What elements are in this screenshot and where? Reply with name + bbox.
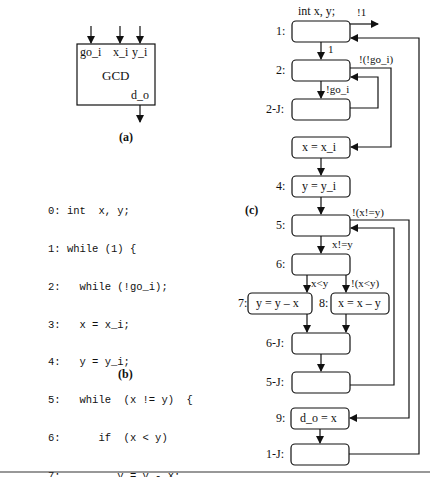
node-label-6: 6: [276,257,285,272]
node-label-9: 9: [276,411,285,426]
fsmd-svg [0,0,430,477]
node-label-2: 2: [276,63,285,78]
node-label-5j: 5-J: [266,375,284,390]
edge-not-ne: !(x!=y) [352,206,384,218]
node-label-7: 7: [238,296,247,311]
edge-not-lt: !(x<y) [351,277,379,289]
node-text-3: x = x_i [302,140,336,155]
node-label-5: 5: [276,218,285,233]
node-label-1j: 1-J: [266,447,284,462]
edge-lt: x<y [311,277,328,289]
edge-not-go: !go_i [326,83,349,95]
node-text-9: d_o = x [300,411,337,426]
node-text-4: y = y_i [302,179,336,194]
node-text-8: x = x – y [338,296,381,311]
node-label-8: 8: [319,296,328,311]
edge-not-1: !1 [357,6,366,18]
caption-c: (c) [245,203,258,218]
node-label-1: 1: [276,24,285,39]
edge-one: 1 [328,43,334,55]
fsmd-header: int x, y; [298,4,335,19]
edge-ne: x!=y [332,238,353,250]
node-label-2j: 2-J: [266,102,284,117]
edge-not-not-go: !(!go_i) [359,53,393,65]
node-label-6j: 6-J: [266,336,284,351]
node-text-7: y = y – x [256,296,299,311]
node-label-4: 4: [276,179,285,194]
